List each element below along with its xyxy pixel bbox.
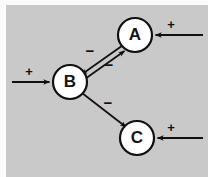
node-A-label: A [118, 18, 152, 52]
edge-sign-A-to-B: − [83, 43, 97, 58]
node-C-label: C [120, 121, 154, 155]
edge-sign-B-to-A: − [102, 57, 116, 72]
input-sign-to-B: + [22, 65, 36, 78]
node-B-label: B [53, 65, 87, 99]
input-sign-to-A: + [164, 18, 178, 31]
figure-container: A B C − − − + + + [0, 0, 208, 177]
edge-sign-B-to-C: − [101, 95, 115, 110]
input-sign-to-C: + [164, 121, 178, 134]
